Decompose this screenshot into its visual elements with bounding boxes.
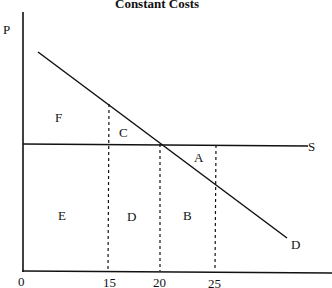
supply-line	[23, 144, 308, 146]
region-a: A	[194, 151, 203, 164]
diagram-canvas	[0, 0, 332, 288]
x-tick-20: 20	[153, 276, 166, 288]
x-tick-0: 0	[18, 275, 25, 288]
demand-label: D	[291, 238, 300, 251]
region-d: D	[127, 210, 136, 223]
region-c: C	[119, 126, 128, 139]
x-tick-15: 15	[103, 276, 116, 288]
dashed-line-25	[215, 145, 216, 271]
diagram-title: Constant Costs	[115, 0, 199, 10]
y-axis-label: P	[3, 23, 10, 36]
region-e: E	[58, 209, 66, 222]
region-f: F	[55, 111, 62, 124]
x-tick-25: 25	[208, 277, 221, 288]
x-axis	[22, 271, 332, 273]
region-b: B	[183, 209, 192, 222]
supply-label: S	[308, 140, 315, 153]
dashed-line-15	[108, 104, 109, 271]
